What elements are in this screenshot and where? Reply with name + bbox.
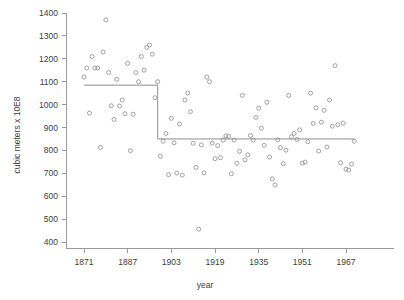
- y-tick-label: 400: [44, 237, 58, 247]
- data-point: [164, 131, 168, 135]
- y-axis: 40050060070080090010001100120013001400: [39, 8, 66, 248]
- data-point: [197, 227, 201, 231]
- data-point: [158, 154, 162, 158]
- data-point: [120, 98, 124, 102]
- data-point: [109, 104, 113, 108]
- data-point: [183, 98, 187, 102]
- data-point: [328, 98, 332, 102]
- data-point: [156, 80, 160, 84]
- data-point: [292, 131, 296, 135]
- data-point: [131, 112, 135, 116]
- x-tick-label: 1903: [162, 257, 181, 267]
- x-tick-label: 1967: [337, 257, 356, 267]
- y-tick-label: 600: [44, 191, 58, 201]
- data-point: [194, 165, 198, 169]
- data-point: [273, 183, 277, 187]
- scatter-plot: 40050060070080090010001100120013001400 1…: [0, 0, 404, 300]
- data-point: [161, 139, 165, 143]
- data-point: [227, 134, 231, 138]
- data-point: [341, 121, 345, 125]
- data-point: [142, 68, 146, 72]
- data-point: [205, 75, 209, 79]
- data-point: [210, 141, 214, 145]
- data-point: [90, 55, 94, 59]
- x-tick-label: 1887: [118, 257, 137, 267]
- data-points: [82, 18, 356, 231]
- data-point: [85, 66, 89, 70]
- data-point: [279, 146, 283, 150]
- data-point: [287, 93, 291, 97]
- x-axis: 1871188719031919193519511967: [66, 248, 394, 267]
- data-point: [268, 155, 272, 159]
- data-point: [96, 66, 100, 70]
- data-point: [311, 121, 315, 125]
- data-point: [123, 112, 127, 116]
- chart-container: 40050060070080090010001100120013001400 1…: [0, 0, 404, 300]
- data-point: [87, 111, 91, 115]
- data-point: [229, 172, 233, 176]
- data-point: [218, 156, 222, 160]
- data-point: [235, 161, 239, 165]
- data-point: [319, 120, 323, 124]
- data-point: [98, 145, 102, 149]
- y-tick-label: 700: [44, 168, 58, 178]
- data-point: [322, 108, 326, 112]
- data-point: [191, 141, 195, 145]
- data-point: [284, 148, 288, 152]
- data-point: [208, 80, 212, 84]
- data-point: [137, 80, 141, 84]
- data-point: [349, 162, 353, 166]
- data-point: [134, 71, 138, 75]
- data-point: [82, 75, 86, 79]
- y-axis-title: cubic meters x 10E8: [12, 96, 22, 173]
- data-point: [259, 126, 263, 130]
- data-point: [115, 77, 119, 81]
- x-tick-label: 1935: [249, 257, 268, 267]
- data-point: [262, 143, 266, 147]
- data-point: [306, 140, 310, 144]
- data-point: [352, 139, 356, 143]
- data-point: [254, 115, 258, 119]
- x-tick-label: 1951: [293, 257, 312, 267]
- x-axis-title: year: [197, 280, 214, 290]
- data-point: [186, 91, 190, 95]
- y-tick-label: 500: [44, 214, 58, 224]
- data-point: [188, 110, 192, 114]
- data-point: [309, 91, 313, 95]
- data-point: [153, 96, 157, 100]
- data-point: [243, 158, 247, 162]
- data-point: [202, 171, 206, 175]
- data-point: [216, 144, 220, 148]
- data-point: [167, 173, 171, 177]
- data-point: [317, 149, 321, 153]
- data-point: [172, 141, 176, 145]
- data-point: [265, 100, 269, 104]
- data-point: [104, 18, 108, 22]
- y-tick-label: 1300: [39, 31, 58, 41]
- data-point: [238, 149, 242, 153]
- data-point: [270, 177, 274, 181]
- data-point: [101, 50, 105, 54]
- data-point: [246, 153, 250, 157]
- y-tick-label: 1200: [39, 54, 58, 64]
- data-point: [213, 157, 217, 161]
- data-point: [298, 128, 302, 132]
- y-tick-label: 1400: [39, 8, 58, 18]
- data-point: [333, 64, 337, 68]
- y-tick-label: 900: [44, 123, 58, 133]
- data-point: [169, 116, 173, 120]
- x-tick-label: 1871: [75, 257, 94, 267]
- data-point: [128, 149, 132, 153]
- data-point: [178, 122, 182, 126]
- data-point: [150, 52, 154, 56]
- data-point: [314, 106, 318, 110]
- data-point: [240, 93, 244, 97]
- x-tick-label: 1919: [206, 257, 225, 267]
- data-point: [257, 106, 261, 110]
- data-point: [330, 124, 334, 128]
- data-point: [199, 143, 203, 147]
- data-point: [281, 162, 285, 166]
- y-tick-label: 1100: [40, 77, 59, 87]
- data-point: [117, 104, 121, 108]
- data-point: [339, 161, 343, 165]
